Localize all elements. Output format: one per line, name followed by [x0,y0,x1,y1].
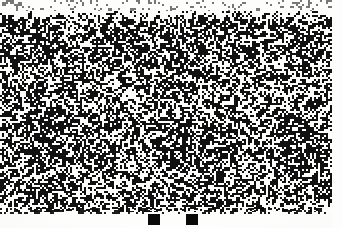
dithered-noise-field [0,11,332,212]
marker-square-right [186,214,198,225]
top-speckle-band [0,0,342,11]
right-paper-margin [332,0,342,228]
scanned-page [0,0,342,228]
bottom-noise-fringe [0,208,332,214]
marker-square-left [148,214,160,225]
